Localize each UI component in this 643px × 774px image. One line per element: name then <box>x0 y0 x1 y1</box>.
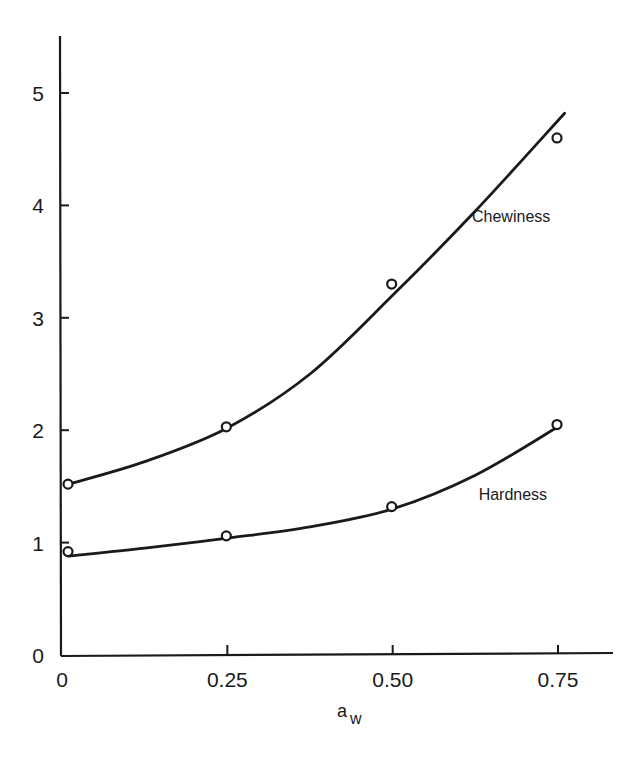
y-tick-label: 0 <box>32 644 44 667</box>
hardness-data-point <box>553 420 562 429</box>
chewiness-data-point <box>553 133 562 142</box>
hardness-data-point <box>64 547 73 556</box>
y-tick-label: 5 <box>32 82 44 105</box>
axes <box>60 36 613 656</box>
y-tick-label: 4 <box>32 194 44 217</box>
hardness-data-point <box>222 531 231 540</box>
chewiness-data-point <box>387 280 396 289</box>
chewiness-data-point <box>64 480 73 489</box>
series-labels: ChewinessHardness <box>472 208 550 503</box>
x-tick-label: 0.50 <box>372 668 413 691</box>
x-tick-label: 0 <box>56 668 68 691</box>
hardness-label: Hardness <box>479 486 547 503</box>
y-tick-label: 1 <box>32 532 44 555</box>
hardness-data-point <box>387 502 396 511</box>
x-ticks: 00.250.500.75 <box>56 645 578 691</box>
x-tick-label: 0.25 <box>207 668 248 691</box>
y-axis-line <box>60 36 61 656</box>
chewiness-data-point <box>222 422 231 431</box>
y-ticks: 012345 <box>32 82 69 667</box>
chewiness-label: Chewiness <box>472 208 550 225</box>
x-tick-label: 0.75 <box>538 668 579 691</box>
x-axis-line <box>61 653 613 656</box>
chart: 012345 00.250.500.75 ChewinessHardness a… <box>0 0 643 774</box>
x-axis-title: aw <box>337 701 362 727</box>
y-tick-label: 3 <box>32 307 44 330</box>
chewiness-fit-curve <box>69 113 565 484</box>
y-tick-label: 2 <box>32 419 44 442</box>
